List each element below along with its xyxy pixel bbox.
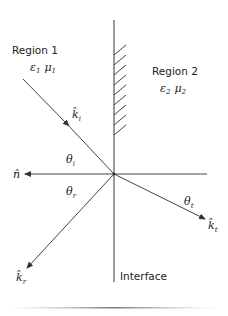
transmitted-wavevector-label: k̂t: [208, 218, 218, 234]
reflection-refraction-diagram: Region 1 ε1μ1 Region 2 ε2μ2 k̂i n̂ θi θr…: [0, 0, 228, 316]
incident-wavevector-label: k̂i: [72, 107, 81, 123]
normal-label: n̂: [13, 168, 20, 181]
incidence-point: [113, 173, 116, 176]
region-1-params: ε1μ1: [30, 61, 56, 75]
region-2-label: Region 2: [152, 65, 198, 77]
interface-hatching: [114, 45, 126, 135]
diagram-canvas: Region 1 ε1μ1 Region 2 ε2μ2 k̂i n̂ θi θr…: [0, 0, 228, 316]
incident-ray-arrow: [23, 79, 67, 124]
interface-label: Interface: [120, 270, 167, 282]
reflected-wavevector-label: k̂r: [16, 270, 27, 286]
incident-angle-label: θi: [66, 153, 75, 168]
region-2-params: ε2μ2: [160, 82, 187, 96]
reflected-angle-label: θr: [66, 185, 77, 200]
transmitted-angle-label: θt: [184, 195, 194, 210]
bottom-divider: [8, 307, 220, 309]
transmitted-ray: [114, 174, 205, 219]
region-1-label: Region 1: [12, 44, 58, 56]
